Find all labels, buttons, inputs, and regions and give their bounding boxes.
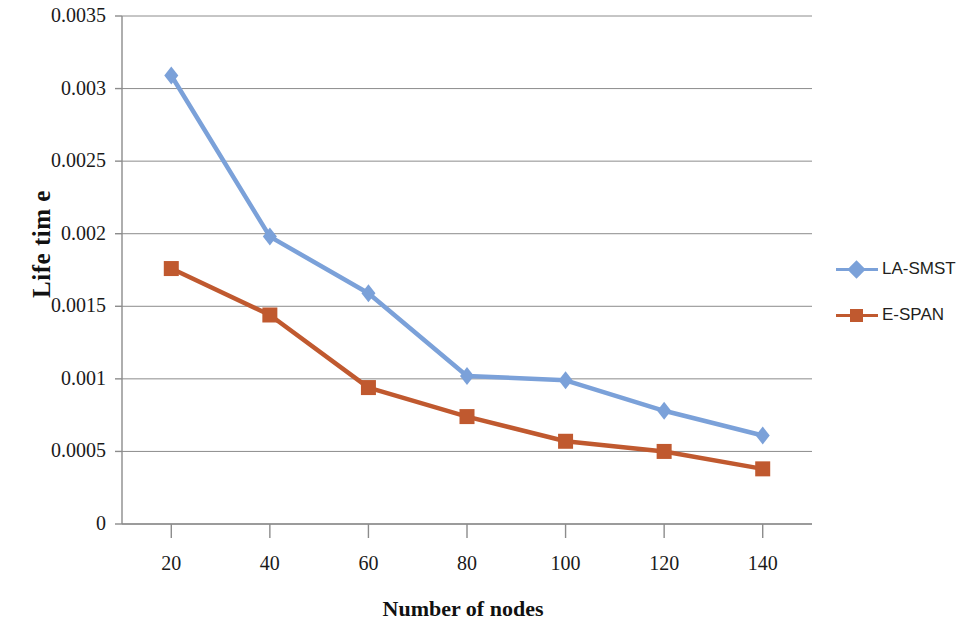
legend-swatch-square-icon [836,306,878,324]
x-axis-tick-label: 120 [629,552,699,575]
x-axis-tick-label: 80 [432,552,502,575]
legend-label-series-2: E-SPAN [882,305,944,325]
x-axis-tick-label: 100 [531,552,601,575]
legend-swatch-diamond-icon [836,260,878,278]
legend-item-series-1: LA-SMST [836,258,967,280]
x-axis-title: Number of nodes [118,596,808,622]
diamond-marker-icon [847,260,865,278]
x-axis-tick-label: 60 [333,552,403,575]
line-chart: 00.00050.0010.00150.0020.00250.0030.0035… [0,0,967,635]
chart-legend: LA-SMST E-SPAN [836,258,967,350]
x-axis-tick-label: 20 [136,552,206,575]
x-axis-tick-label: 40 [235,552,305,575]
legend-item-series-2: E-SPAN [836,304,967,326]
x-axis-tick-label: 140 [728,552,798,575]
legend-label-series-1: LA-SMST [882,259,956,279]
x-axis-tick-labels: 20406080100120140 [0,0,967,635]
square-marker-icon [850,309,863,322]
y-axis-title: Life tim e [28,144,56,344]
